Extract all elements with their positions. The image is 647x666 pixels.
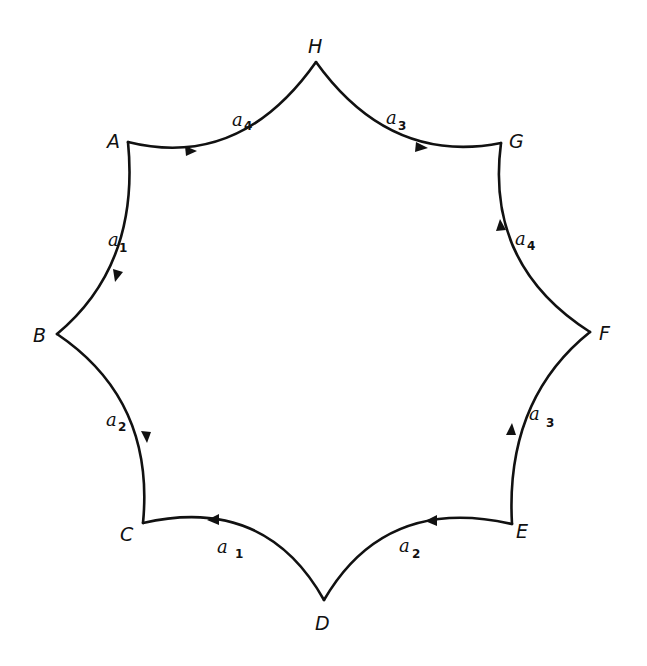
edge-a4-GF xyxy=(499,143,590,332)
vertex-label-G: G xyxy=(509,130,524,152)
svg-text:1: 1 xyxy=(119,241,127,255)
edge-label-a1-DC: a 1 xyxy=(217,536,243,561)
vertex-label-E: E xyxy=(516,520,528,542)
svg-text:2: 2 xyxy=(118,420,126,434)
octagon-diagram: H G F E D C B A a 4 a 3 a 4 a 3 a 2 a 1 … xyxy=(0,0,647,666)
edge-label-a4-GF: a 4 xyxy=(515,228,535,253)
svg-text:a: a xyxy=(515,228,526,249)
arrow-icon xyxy=(506,423,516,435)
svg-text:4: 4 xyxy=(527,239,535,253)
svg-text:a: a xyxy=(399,535,410,556)
svg-text:3: 3 xyxy=(546,416,554,430)
svg-text:a: a xyxy=(217,536,228,557)
svg-text:4: 4 xyxy=(244,119,252,133)
vertex-label-B: B xyxy=(33,324,46,346)
vertex-label-F: F xyxy=(599,322,611,344)
arrow-icon xyxy=(207,514,219,525)
edge-label-a3-FE: a 3 xyxy=(529,403,554,430)
edge-a4-AH xyxy=(128,62,316,148)
arrow-icon xyxy=(425,515,437,526)
svg-text:a: a xyxy=(386,107,397,128)
svg-text:a: a xyxy=(529,403,540,424)
vertex-label-H: H xyxy=(308,35,322,57)
svg-text:a: a xyxy=(232,109,243,130)
edge-a1-DC xyxy=(143,517,324,600)
edge-label-a2-CB: a 2 xyxy=(106,409,126,434)
edge-label-a4-AH: a 4 xyxy=(232,109,252,133)
svg-text:a: a xyxy=(108,229,119,250)
edge-a3-HG xyxy=(316,62,501,147)
svg-text:1: 1 xyxy=(235,547,243,561)
arrow-icon xyxy=(113,269,123,282)
vertex-label-D: D xyxy=(315,612,330,634)
vertex-label-C: C xyxy=(120,523,134,545)
svg-text:2: 2 xyxy=(412,547,420,561)
svg-text:3: 3 xyxy=(398,119,406,133)
edge-label-a2-ED: a 2 xyxy=(399,535,420,561)
arrow-icon xyxy=(141,431,151,443)
vertex-label-A: A xyxy=(105,130,120,152)
edge-a2-CB xyxy=(57,334,144,523)
svg-text:a: a xyxy=(106,409,117,430)
